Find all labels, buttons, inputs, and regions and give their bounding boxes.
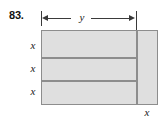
dimension-line-y: y [41,11,137,27]
problem-number: 83. [9,9,24,21]
height-label-x-3: x [28,85,38,97]
geometry-figure: 83. y x x x x [0,0,167,124]
vertical-divider [136,31,138,104]
dimension-line-segment-right [91,18,131,19]
extension-tick-right-icon [136,11,137,30]
height-label-x-2: x [28,62,38,74]
rectangle-shape [41,30,158,105]
horizontal-divider-1 [42,57,138,59]
dimension-line-segment-left [47,18,71,19]
side-label-x: x [142,106,152,118]
height-label-x-1: x [28,39,38,51]
horizontal-divider-2 [42,80,138,82]
dimension-label-y: y [74,10,90,24]
